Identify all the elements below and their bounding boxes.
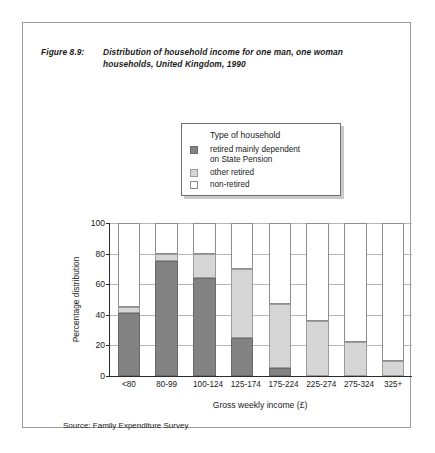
y-axis-tick-mark	[106, 376, 110, 377]
y-axis-tick-label: 100	[91, 218, 105, 228]
figure-number: Figure 8.9:	[41, 47, 103, 59]
bar-segment[interactable]	[269, 368, 292, 376]
chart-legend: Type of household retired mainly depende…	[181, 123, 341, 196]
legend-label-line-1: retired mainly dependent	[210, 145, 340, 155]
stacked-bar[interactable]	[118, 223, 141, 376]
source-note: Source: Family Expenditure Survey	[63, 421, 188, 430]
stacked-bar[interactable]	[269, 223, 292, 376]
y-axis-tick-label: 60	[95, 279, 105, 289]
legend-label-other-retired: other retired	[210, 168, 340, 178]
bar-segment[interactable]	[306, 223, 329, 321]
legend-swatch-other-retired	[190, 169, 198, 177]
x-axis-tick-label: 225-274	[306, 380, 329, 389]
figure-title-line-2: households, United Kingdom, 1990	[103, 59, 393, 71]
legend-label-line-2: on State Pension	[210, 155, 340, 165]
figure-frame: Figure 8.9: Distribution of household in…	[22, 22, 411, 428]
bar-group: 175-224	[269, 223, 292, 376]
y-axis-tick-label: 40	[95, 310, 105, 320]
bar-segment[interactable]	[306, 321, 329, 376]
stacked-bar[interactable]	[306, 223, 329, 376]
bar-group: 325+	[382, 223, 405, 376]
bar-segment[interactable]	[155, 261, 178, 376]
y-axis-tick-label: 0	[100, 371, 105, 381]
x-axis-tick-label: <80	[118, 380, 141, 389]
bar-segment[interactable]	[231, 338, 254, 376]
y-axis-tick-mark	[106, 284, 110, 285]
bar-segment[interactable]	[118, 307, 141, 313]
x-axis-tick-label: 275-324	[344, 380, 367, 389]
y-axis-tick-label: 20	[95, 340, 105, 350]
legend-item-other-retired: other retired	[190, 168, 340, 178]
x-axis-tick-label: 125-174	[231, 380, 254, 389]
bar-segment[interactable]	[344, 342, 367, 376]
bar-segment[interactable]	[193, 278, 216, 376]
bar-segment[interactable]	[118, 313, 141, 376]
bar-segment[interactable]	[231, 269, 254, 338]
x-axis-tick-label: 325+	[382, 380, 405, 389]
bar-segment[interactable]	[155, 254, 178, 262]
bar-segment[interactable]	[382, 223, 405, 361]
legend-title: Type of household	[210, 130, 280, 140]
bar-segment[interactable]	[382, 361, 405, 376]
bar-group: 100-124	[193, 223, 216, 376]
y-axis-title: Percentage distribution	[71, 223, 83, 376]
x-axis-title: Gross weekly income (£)	[109, 400, 411, 410]
bar-segment[interactable]	[231, 223, 254, 269]
bar-segment[interactable]	[269, 304, 292, 368]
stacked-bar[interactable]	[382, 223, 405, 376]
bar-segment[interactable]	[193, 254, 216, 278]
legend-item-retired-state-pension: retired mainly dependent on State Pensio…	[190, 145, 340, 164]
legend-swatch-retired-state-pension	[190, 146, 198, 154]
bar-segment[interactable]	[344, 223, 367, 342]
bar-segment[interactable]	[118, 223, 141, 307]
plot-area: 020406080100<8080-99100-124125-174175-22…	[109, 223, 412, 377]
y-axis-tick-mark	[106, 315, 110, 316]
x-axis-tick-label: 175-224	[269, 380, 292, 389]
figure-title: Figure 8.9: Distribution of household in…	[41, 47, 393, 70]
bar-segment[interactable]	[193, 223, 216, 254]
stacked-bar[interactable]	[344, 223, 367, 376]
bar-segment[interactable]	[155, 223, 178, 254]
y-axis-tick-mark	[106, 223, 110, 224]
stacked-bar[interactable]	[155, 223, 178, 376]
legend-label-non-retired: non-retired	[210, 180, 340, 190]
bar-group: 225-274	[306, 223, 329, 376]
bar-segment[interactable]	[269, 223, 292, 304]
figure-title-line-1: Distribution of household income for one…	[103, 47, 393, 59]
legend-item-non-retired: non-retired	[190, 180, 340, 190]
stacked-bar[interactable]	[231, 223, 254, 376]
y-axis-tick-label: 80	[95, 249, 105, 259]
y-axis-tick-mark	[106, 254, 110, 255]
bar-group: 80-99	[155, 223, 178, 376]
x-axis-tick-label: 80-99	[155, 380, 178, 389]
stacked-bar[interactable]	[193, 223, 216, 376]
bar-group: 125-174	[231, 223, 254, 376]
legend-swatch-non-retired	[190, 181, 198, 189]
bar-group: 275-324	[344, 223, 367, 376]
bar-group: <80	[118, 223, 141, 376]
x-axis-tick-label: 100-124	[193, 380, 216, 389]
y-axis-tick-mark	[106, 345, 110, 346]
